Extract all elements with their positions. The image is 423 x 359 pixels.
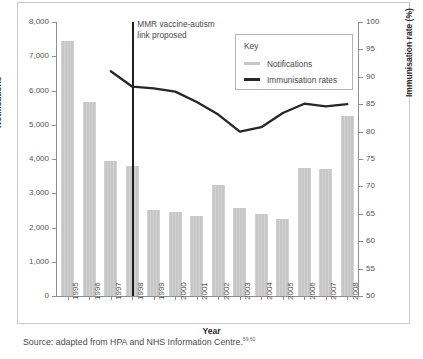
immunisation-rate-line-path <box>111 71 347 131</box>
figure-container: Notifications Immunisation rate (%) Year… <box>0 0 423 359</box>
immunisation-rate-line <box>0 0 423 359</box>
